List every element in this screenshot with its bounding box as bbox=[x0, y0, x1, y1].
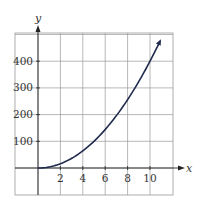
chart: 246810100200300400 x y bbox=[0, 0, 199, 204]
x-tick-label: 8 bbox=[124, 172, 131, 184]
x-tick-label: 2 bbox=[57, 172, 64, 184]
y-tick-label: 100 bbox=[13, 135, 33, 147]
y-tick-label: 200 bbox=[13, 108, 33, 120]
data-curve bbox=[38, 41, 160, 168]
y-axis-label: y bbox=[34, 12, 42, 25]
x-tick-label: 4 bbox=[79, 172, 86, 184]
x-tick-label: 10 bbox=[143, 172, 156, 184]
x-axis-label: x bbox=[186, 162, 193, 175]
y-tick-label: 400 bbox=[13, 55, 33, 67]
y-axis-arrow-icon bbox=[36, 25, 41, 32]
axes bbox=[15, 25, 185, 195]
x-axis-arrow-icon bbox=[178, 166, 185, 171]
x-tick-label: 6 bbox=[102, 172, 109, 184]
tick-labels: 246810100200300400 bbox=[13, 55, 157, 184]
grid bbox=[15, 33, 173, 195]
grid-border bbox=[15, 33, 173, 195]
y-tick-label: 300 bbox=[13, 81, 33, 93]
